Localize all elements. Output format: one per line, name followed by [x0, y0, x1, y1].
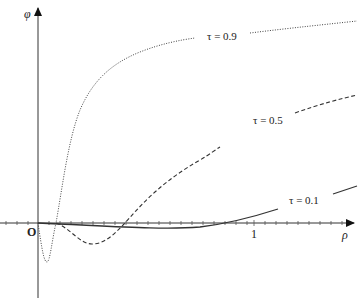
curve-tau-0-1-tail	[333, 186, 357, 194]
x-axis-label: ρ	[341, 228, 348, 242]
x-tick-label-1: 1	[251, 227, 257, 241]
y-axis-label: φ	[24, 7, 31, 21]
label-tau-0-1: τ = 0.1	[289, 194, 319, 206]
chart: τ = 0.9 τ = 0.5 τ = 0.1 φ ρ O 1	[0, 0, 358, 301]
curve-tau-0-5-tail	[295, 95, 357, 113]
label-tau-0-5: τ = 0.5	[253, 114, 283, 126]
label-tau-0-9: τ = 0.9	[207, 30, 237, 42]
origin-label: O	[27, 225, 36, 239]
curve-tau-0-1	[38, 209, 278, 228]
curve-tau-0-5	[56, 147, 220, 244]
curve-tau-0-9-tail	[250, 21, 357, 33]
